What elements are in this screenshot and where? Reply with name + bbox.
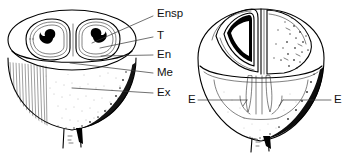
right-fruit-drawing [198, 9, 331, 152]
leader-me [70, 63, 153, 73]
right-cavity-wall-left [214, 80, 244, 118]
label-ensp: Ensp [157, 7, 183, 19]
right-stalk-texture [256, 142, 260, 146]
left-locule-1-embryo [39, 29, 55, 44]
leader-e-right-hook [279, 100, 283, 106]
label-e-left: E [188, 93, 196, 105]
left-stalk-shadow [76, 128, 83, 144]
left-seed-locule-1 [26, 19, 70, 60]
left-seed-locule-2 [73, 19, 120, 60]
left-fruit-drawing [8, 10, 153, 148]
right-seed-right-stipple [273, 17, 309, 68]
right-embryo-tip-right [272, 96, 282, 114]
label-ex: Ex [157, 86, 171, 98]
left-pericarp-shadow [57, 58, 136, 131]
leader-en [101, 55, 153, 56]
right-cavity-floor [244, 118, 278, 120]
leader-ex [72, 88, 153, 93]
right-lower-half [214, 60, 324, 141]
figure-root: Ensp T En Me Ex E E [0, 0, 347, 153]
right-seed-right-outline [267, 10, 311, 74]
left-stalk-texture [68, 136, 73, 143]
label-en: En [157, 48, 171, 60]
seed-anatomy-illustration: Ensp T En Me Ex E E [0, 0, 347, 153]
right-embryo-left [246, 76, 252, 112]
left-pericarp-hatching [10, 60, 47, 128]
right-embryo-right [266, 76, 272, 112]
right-stalk-shadow [263, 136, 271, 149]
leader-t [100, 37, 153, 48]
right-seed-left-cavity [227, 15, 252, 62]
right-lower-stipple [224, 92, 297, 131]
right-upper-half [212, 9, 311, 74]
label-t: T [157, 29, 164, 41]
label-me: Me [157, 66, 173, 78]
left-mesocarp-inner-edge [12, 51, 132, 62]
left-locule-2-embryo [91, 28, 107, 43]
label-e-right: E [334, 93, 342, 105]
left-cut-surface-rim [8, 10, 136, 70]
